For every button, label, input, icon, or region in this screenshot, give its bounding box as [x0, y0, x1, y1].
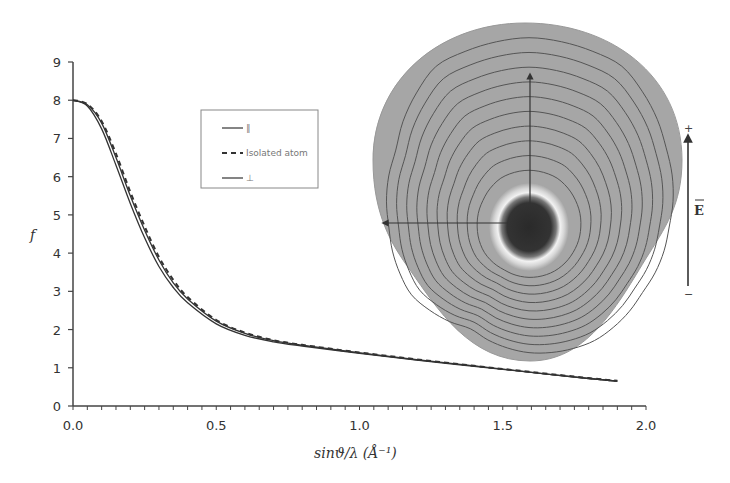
legend-label: Isolated atom: [246, 148, 308, 158]
x-tick-label: 0.5: [206, 418, 227, 433]
electric-field-indicator: + − E: [684, 122, 704, 301]
y-tick-label: 8: [53, 93, 61, 108]
x-tick-label: 1.0: [349, 418, 370, 433]
y-tick-label: 3: [53, 284, 61, 299]
y-tick-label: 5: [53, 208, 61, 223]
y-ticks: 0123456789: [53, 55, 73, 414]
legend: ∥Isolated atom⊥: [201, 110, 318, 188]
y-tick-label: 2: [53, 323, 61, 338]
y-tick-label: 6: [53, 170, 61, 185]
atom-core: [489, 183, 569, 271]
legend-label: ∥: [246, 123, 251, 133]
x-axis-title: sinϑ/λ (Å⁻¹): [314, 444, 397, 461]
x-tick-label: 1.5: [492, 418, 513, 433]
field-minus: −: [684, 288, 693, 301]
x-ticks: 0.00.51.01.52.0: [63, 406, 657, 433]
x-tick-label: 0.0: [63, 418, 84, 433]
inset-density-map: [373, 23, 682, 361]
y-tick-label: 4: [53, 246, 61, 261]
y-tick-label: 7: [53, 131, 61, 146]
y-tick-label: 0: [53, 399, 61, 414]
y-tick-label: 9: [53, 55, 61, 70]
field-label: E: [694, 203, 704, 218]
field-plus: +: [684, 122, 693, 135]
y-axis-title: f: [29, 227, 38, 243]
y-tick-label: 1: [53, 361, 61, 376]
x-tick-label: 2.0: [636, 418, 657, 433]
chart: + − E 0123456789 0.00.51.01.52.0 f sinϑ/…: [0, 0, 730, 483]
legend-label: ⊥: [246, 173, 254, 183]
